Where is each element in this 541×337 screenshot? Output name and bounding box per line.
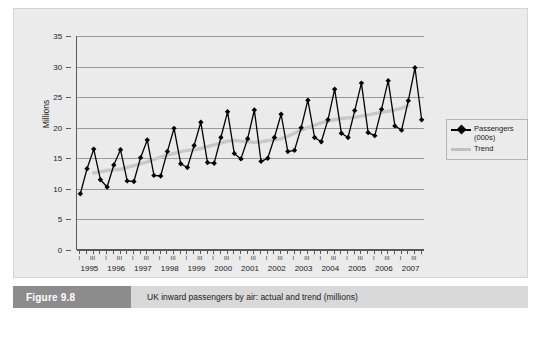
x-axis-year-label: 2000: [214, 264, 232, 273]
data-point: [332, 86, 337, 91]
x-axis-quarter-label: III: [385, 255, 390, 261]
data-point: [124, 178, 129, 183]
x-axis-tick-mark: [140, 250, 141, 254]
x-axis: IIIIIIIIIIIIIIIIIIIIIIIIIIIIIIIIIIIIIIII…: [76, 250, 424, 286]
x-axis-quarter-label: I: [319, 255, 321, 261]
x-axis-tick-mark: [186, 250, 187, 254]
y-axis-tick-mark: [66, 67, 71, 68]
x-axis-tick-mark: [414, 250, 415, 254]
x-axis-year-label: 2002: [268, 264, 286, 273]
x-axis-tick-mark: [421, 250, 422, 254]
x-axis-year-label: 2006: [375, 264, 393, 273]
x-axis-quarter-label: I: [105, 255, 107, 261]
figure-caption: Figure 9.8 UK inward passengers by air: …: [13, 286, 528, 308]
y-axis-tick-label: 10: [53, 184, 62, 193]
x-axis-tick-mark: [307, 250, 308, 254]
x-axis-quarter-label: I: [159, 255, 161, 261]
x-axis-quarter-label: III: [90, 255, 95, 261]
x-axis-year-label: 2007: [402, 264, 420, 273]
x-axis-tick-mark: [294, 250, 295, 254]
x-axis-year-label: 1996: [107, 264, 125, 273]
x-axis-tick-mark: [200, 250, 201, 254]
legend-marker-diamond-icon: [451, 125, 471, 135]
legend-label: Passengers(000s): [474, 124, 514, 142]
x-axis-year-label: 2001: [241, 264, 259, 273]
y-axis-title: Millions: [41, 74, 51, 154]
x-axis-quarter-label: I: [346, 255, 348, 261]
x-axis-tick-mark: [207, 250, 208, 254]
x-axis-tick-mark: [407, 250, 408, 254]
data-point: [285, 149, 290, 154]
x-axis-tick-mark: [394, 250, 395, 254]
x-axis-tick-mark: [401, 250, 402, 254]
x-axis-quarter-label: III: [331, 255, 336, 261]
data-point: [145, 137, 150, 142]
x-axis-tick-mark: [153, 250, 154, 254]
series-trend: [94, 106, 409, 173]
legend-marker-line-icon: [451, 145, 471, 155]
x-axis-quarter-label: III: [144, 255, 149, 261]
figure-number: Figure 9.8: [13, 286, 131, 308]
chart-panel: 05101520253035 Millions IIIIIIIIIIIIIIII…: [13, 8, 528, 278]
data-point: [412, 65, 417, 70]
x-axis-year-label: 1999: [188, 264, 206, 273]
x-axis-year-label: 1995: [80, 264, 98, 273]
data-point: [258, 159, 263, 164]
data-point: [198, 120, 203, 125]
x-axis-tick-mark: [227, 250, 228, 254]
series-passengers: [78, 65, 425, 196]
x-axis-quarter-label: III: [117, 255, 122, 261]
legend-item: Trend: [451, 144, 524, 155]
x-axis-tick-mark: [267, 250, 268, 254]
data-point: [352, 108, 357, 113]
x-axis-tick-mark: [220, 250, 221, 254]
y-axis-tick-label: 30: [53, 62, 62, 71]
x-axis-tick-mark: [86, 250, 87, 254]
legend-label-line2: (000s): [474, 133, 514, 142]
x-axis-tick-mark: [260, 250, 261, 254]
x-axis-tick-mark: [126, 250, 127, 254]
x-axis-quarter-label: III: [170, 255, 175, 261]
x-axis-quarter-label: I: [266, 255, 268, 261]
data-point: [131, 179, 136, 184]
y-axis-tick-mark: [66, 250, 71, 251]
x-axis-tick-mark: [146, 250, 147, 254]
x-axis-quarter-label: III: [277, 255, 282, 261]
data-point: [191, 143, 196, 148]
x-axis-quarter-label: I: [212, 255, 214, 261]
x-axis-year-label: 2004: [321, 264, 339, 273]
series-layer: [77, 36, 425, 250]
data-point: [171, 126, 176, 131]
x-axis-tick-mark: [320, 250, 321, 254]
x-axis-tick-mark: [133, 250, 134, 254]
x-axis-tick-mark: [287, 250, 288, 254]
data-point: [158, 173, 163, 178]
x-axis-year-label: 1998: [161, 264, 179, 273]
series-line: [94, 106, 409, 173]
data-point: [252, 107, 257, 112]
data-point: [218, 135, 223, 140]
x-axis-tick-mark: [213, 250, 214, 254]
data-point: [111, 162, 116, 167]
x-axis-tick-mark: [160, 250, 161, 254]
series-line: [80, 68, 421, 194]
x-axis-tick-mark: [314, 250, 315, 254]
y-axis-tick-mark: [66, 36, 71, 37]
data-point: [419, 117, 424, 122]
y-axis-tick-label: 25: [53, 93, 62, 102]
x-axis-tick-mark: [173, 250, 174, 254]
legend-item: Passengers(000s): [451, 124, 524, 142]
x-axis-tick-mark: [374, 250, 375, 254]
x-axis-year-label: 1997: [134, 264, 152, 273]
data-point: [372, 133, 377, 138]
x-axis-tick-mark: [247, 250, 248, 254]
x-axis-quarter-label: I: [186, 255, 188, 261]
x-axis-tick-mark: [113, 250, 114, 254]
y-axis-tick-mark: [66, 128, 71, 129]
x-axis-tick-mark: [280, 250, 281, 254]
y-axis-tick-label: 5: [58, 215, 62, 224]
plot-area: [76, 36, 424, 250]
data-point: [185, 165, 190, 170]
data-point: [225, 109, 230, 114]
x-axis-tick-mark: [381, 250, 382, 254]
